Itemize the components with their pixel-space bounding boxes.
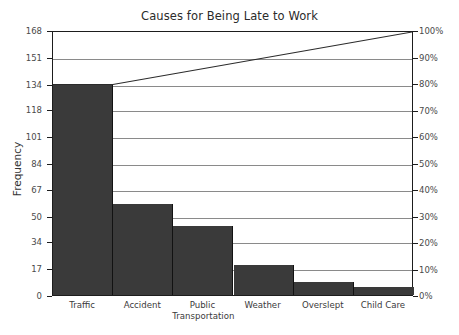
- x-tick-label-line: Public: [172, 300, 232, 311]
- x-tick-label: Weather: [233, 300, 293, 311]
- y2-tick-mark: [413, 296, 418, 297]
- y-tick-label: 84: [2, 159, 42, 169]
- y2-tick-label: 20%: [419, 238, 459, 248]
- y2-tick-mark: [413, 217, 418, 218]
- x-tick-label: Overslept: [293, 300, 353, 311]
- y2-tick-mark: [413, 243, 418, 244]
- cumulative-line-series: [53, 32, 412, 295]
- y2-tick-mark: [413, 164, 418, 165]
- y-tick-label: 134: [2, 80, 42, 90]
- y-tick-label: 151: [2, 53, 42, 63]
- y-tick-label: 50: [2, 212, 42, 222]
- y2-tick-mark: [413, 84, 418, 85]
- y2-tick-label: 0%: [419, 291, 459, 301]
- x-tick-label-line: Traffic: [52, 300, 112, 311]
- y2-tick-label: 50%: [419, 159, 459, 169]
- y2-tick-label: 30%: [419, 212, 459, 222]
- y-tick-label: 168: [2, 26, 42, 36]
- y2-tick-label: 80%: [419, 79, 459, 89]
- y-tick-mark: [47, 296, 52, 297]
- y-tick-label: 34: [2, 237, 42, 247]
- chart-title: Causes for Being Late to Work: [0, 9, 459, 23]
- y2-tick-label: 10%: [419, 265, 459, 275]
- x-tick-label-line: Overslept: [293, 300, 353, 311]
- x-axis-labels: TrafficAccidentPublicTransportationWeath…: [52, 300, 413, 334]
- y2-tick-mark: [413, 111, 418, 112]
- y-tick-label: 101: [2, 132, 42, 142]
- y-tick-label: 0: [2, 291, 42, 301]
- y-tick-label: 17: [2, 264, 42, 274]
- y2-tick-mark: [413, 190, 418, 191]
- x-tick-label: Accident: [112, 300, 172, 311]
- x-tick-label-line: Child Care: [353, 300, 413, 311]
- y2-tick-mark: [413, 58, 418, 59]
- pareto-chart: Causes for Being Late to Work Frequency …: [0, 0, 459, 335]
- y2-tick-mark: [413, 137, 418, 138]
- x-tick-label: Traffic: [52, 300, 112, 311]
- y2-tick-mark: [413, 31, 418, 32]
- y2-tick-label: 100%: [419, 26, 459, 36]
- x-tick-label-line: Weather: [233, 300, 293, 311]
- y2-tick-mark: [413, 270, 418, 271]
- y2-tick-label: 90%: [419, 53, 459, 63]
- y2-tick-label: 70%: [419, 106, 459, 116]
- x-tick-label-line: Accident: [112, 300, 172, 311]
- x-tick-label-line: Transportation: [172, 311, 232, 322]
- y2-tick-label: 60%: [419, 132, 459, 142]
- cumulative-line: [53, 32, 412, 85]
- y-tick-label: 118: [2, 105, 42, 115]
- y2-tick-label: 40%: [419, 185, 459, 195]
- x-tick-label: PublicTransportation: [172, 300, 232, 321]
- x-tick-label: Child Care: [353, 300, 413, 311]
- y-tick-label: 67: [2, 185, 42, 195]
- plot-area: [52, 31, 413, 296]
